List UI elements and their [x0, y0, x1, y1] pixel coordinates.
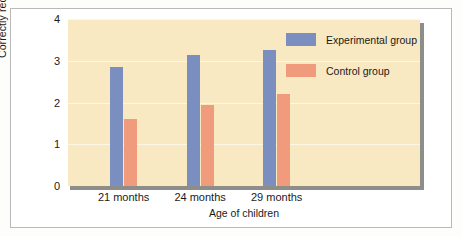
legend-swatch — [286, 64, 316, 77]
bar-group — [187, 19, 214, 186]
plot-area-baseline — [70, 186, 424, 190]
bar-group — [110, 19, 137, 186]
figure-container: 01234 Correctly recalled tasks 21 months… — [0, 0, 462, 236]
x-axis-title: Age of children — [68, 207, 420, 219]
y-axis-tick-label: 3 — [40, 56, 60, 66]
legend-item: Control group — [286, 64, 417, 77]
plot-shadow-right — [420, 23, 424, 190]
bar — [277, 94, 290, 186]
y-axis-tick-label: 4 — [40, 14, 60, 24]
legend-label: Experimental group — [326, 34, 417, 46]
legend-item: Experimental group — [286, 33, 417, 46]
x-axis-tick-label: 29 months — [245, 191, 309, 203]
y-axis-tick-label: 2 — [40, 98, 60, 108]
bar — [187, 55, 200, 187]
legend: Experimental groupControl group — [286, 33, 417, 95]
y-axis-tick-label: 0 — [40, 181, 60, 191]
y-axis-title: Correctly recalled tasks — [0, 0, 8, 58]
bar — [201, 105, 214, 186]
legend-label: Control group — [326, 65, 390, 77]
bar — [263, 50, 276, 186]
y-axis-tick-label: 1 — [40, 139, 60, 149]
legend-swatch — [286, 33, 316, 46]
bar — [124, 119, 137, 186]
x-axis-tick-label: 21 months — [92, 191, 156, 203]
x-axis-tick-label: 24 months — [168, 191, 232, 203]
bar — [110, 67, 123, 186]
